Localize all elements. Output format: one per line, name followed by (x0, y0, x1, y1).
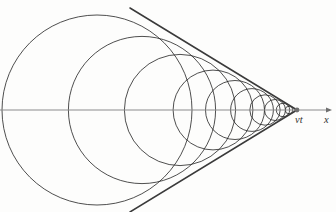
lower-mach-line (130, 110, 297, 212)
mach-cone-diagram-canvas: vt x (0, 0, 336, 212)
source-position-label: vt (295, 114, 304, 125)
upper-mach-line (130, 8, 297, 110)
source-position-marker (295, 108, 300, 113)
mach-cone-figure: vt x (0, 0, 336, 212)
x-axis-label: x (323, 114, 329, 125)
x-axis-arrowhead-icon (326, 107, 332, 112)
x-axis-group (0, 107, 332, 112)
